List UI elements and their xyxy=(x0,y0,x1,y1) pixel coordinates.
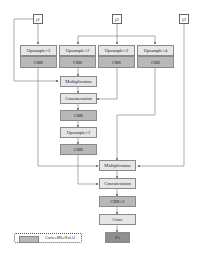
multiplication-box-1: Multiplication xyxy=(60,76,97,87)
input-feature-f1: f1 xyxy=(33,14,43,24)
upsample-box-1: Upsample×2 xyxy=(20,45,57,56)
concatenation-box-1: Concatenation xyxy=(60,93,97,104)
cbr-x2-box: CBR×2 xyxy=(99,196,136,207)
input-feature-f3: f3 xyxy=(179,14,189,24)
cbr-box-1: CBR xyxy=(20,56,57,68)
upsample-box-branch1: Upsample×2 xyxy=(60,127,97,138)
f2-label: f2 xyxy=(115,17,119,22)
cbr-box-3: CBR xyxy=(98,56,135,68)
upsample-box-4: Upsample×4 xyxy=(137,45,174,56)
cbr-box-branch1-2: CBR xyxy=(60,144,97,155)
legend-text: Conv+BN+ReLU xyxy=(45,235,75,240)
multiplication-box-2: Multiplication xyxy=(99,160,136,171)
conv-box: Conv xyxy=(99,214,136,225)
cbr-box-4: CBR xyxy=(137,56,174,68)
upsample-box-3: Upsample×2 xyxy=(98,45,135,56)
upsample-box-2: Upsample×2 xyxy=(59,45,96,56)
input-feature-f2: f2 xyxy=(112,14,122,24)
cbr-box-branch1: CBR xyxy=(60,110,97,121)
output-fs-box: Fs xyxy=(105,232,130,243)
f3-label: f3 xyxy=(182,17,186,22)
cbr-box-2: CBR xyxy=(59,56,96,68)
concatenation-box-2: Concatenation xyxy=(99,178,136,189)
legend: Conv+BN+ReLU xyxy=(14,233,82,243)
f1-label: f1 xyxy=(36,17,40,22)
legend-cbr-swatch xyxy=(19,236,39,243)
